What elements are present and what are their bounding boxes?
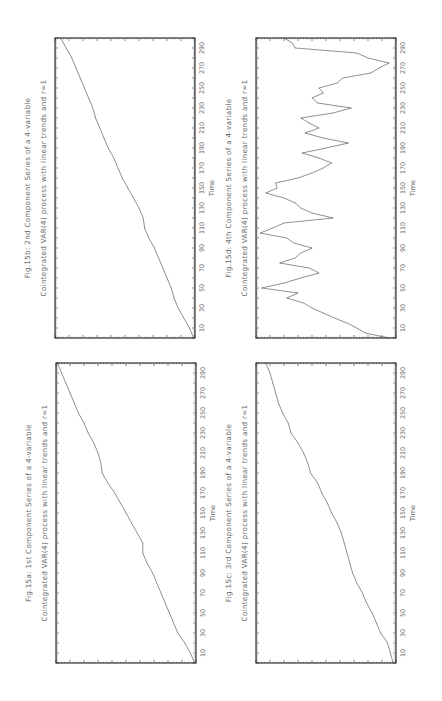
data-point xyxy=(302,153,303,154)
data-point xyxy=(161,593,162,594)
x-tick-label: 10 xyxy=(198,324,206,332)
x-tick-label: 270 xyxy=(399,387,407,399)
data-point xyxy=(80,78,81,79)
x-tick-label: 210 xyxy=(199,447,207,459)
data-point xyxy=(74,403,75,404)
data-point xyxy=(298,443,299,444)
data-point xyxy=(347,553,348,554)
x-tick-label: 290 xyxy=(199,367,207,379)
x-tick-label: 50 xyxy=(199,609,207,617)
x-tick-label: 30 xyxy=(198,304,206,312)
data-point xyxy=(270,373,271,374)
data-point xyxy=(139,208,140,209)
data-point xyxy=(327,503,328,504)
data-point xyxy=(194,663,195,664)
x-tick-label: 190 xyxy=(198,142,206,154)
data-point xyxy=(157,583,158,584)
data-point xyxy=(319,128,320,129)
data-point xyxy=(366,603,367,604)
data-point xyxy=(88,433,89,434)
data-point xyxy=(98,453,99,454)
x-tick-label: 230 xyxy=(399,102,407,114)
data-point xyxy=(102,473,103,474)
data-point xyxy=(348,143,349,144)
x-tick-label: 170 xyxy=(399,487,407,499)
data-point xyxy=(178,633,179,634)
data-point xyxy=(387,643,388,644)
data-point xyxy=(273,228,274,229)
data-point xyxy=(337,83,338,84)
data-point xyxy=(303,303,304,304)
x-tick-label: 90 xyxy=(399,244,407,252)
data-point xyxy=(298,178,299,179)
data-point xyxy=(94,443,95,444)
x-tick-label: 150 xyxy=(399,182,407,194)
data-point xyxy=(319,88,320,89)
x-tick-label: 130 xyxy=(198,202,206,214)
x-tick-label: 90 xyxy=(399,569,407,577)
data-point xyxy=(303,453,304,454)
data-point xyxy=(104,138,105,139)
data-point xyxy=(284,283,285,284)
data-point xyxy=(326,148,327,149)
data-point xyxy=(266,363,267,364)
x-tick-label: 190 xyxy=(399,467,407,479)
x-tick-label: 190 xyxy=(399,142,407,154)
data-point xyxy=(174,298,175,299)
data-point xyxy=(122,178,123,179)
chart-subtitle: Cointegrated VAR(4) process with linear … xyxy=(240,80,249,297)
data-point xyxy=(372,613,373,614)
data-point xyxy=(66,48,67,49)
data-point xyxy=(337,523,338,524)
data-point xyxy=(334,318,335,319)
x-tick-label: 230 xyxy=(199,427,207,439)
data-point xyxy=(266,193,267,194)
data-point xyxy=(292,43,293,44)
data-point xyxy=(323,93,324,94)
x-tick-label: 130 xyxy=(399,202,407,214)
data-point xyxy=(287,298,288,299)
data-point xyxy=(301,253,302,254)
data-point xyxy=(137,533,138,534)
panel-fig15d: Fig.15d: 4th Component Series of a 4-var… xyxy=(224,38,417,339)
data-point xyxy=(390,653,391,654)
x-tick-label: 130 xyxy=(199,527,207,539)
data-point xyxy=(193,338,194,339)
data-point xyxy=(72,58,73,59)
data-point xyxy=(108,148,109,149)
x-tick-label: 90 xyxy=(199,569,207,577)
data-point xyxy=(312,213,313,214)
x-tick-label: 90 xyxy=(198,244,206,252)
x-axis-label: Time xyxy=(409,505,417,523)
data-point xyxy=(323,138,324,139)
x-axis-label: Time xyxy=(208,180,216,198)
data-point xyxy=(95,118,96,119)
x-tick-label: 70 xyxy=(199,589,207,597)
x-tick-label: 150 xyxy=(198,182,206,194)
data-point xyxy=(393,663,394,664)
data-point xyxy=(288,423,289,424)
data-point xyxy=(317,483,318,484)
data-point xyxy=(379,68,380,69)
data-point xyxy=(309,268,310,269)
data-point xyxy=(357,53,358,54)
data-point xyxy=(331,513,332,514)
x-tick-label: 210 xyxy=(399,447,407,459)
x-tick-label: 70 xyxy=(399,264,407,272)
data-point xyxy=(309,123,310,124)
x-tick-label: 170 xyxy=(198,162,206,174)
data-point xyxy=(389,338,390,339)
data-point xyxy=(108,483,109,484)
data-point xyxy=(154,248,155,249)
x-tick-label: 150 xyxy=(199,507,207,519)
data-point xyxy=(66,383,67,384)
x-tick-label: 50 xyxy=(399,609,407,617)
data-point xyxy=(371,73,372,74)
data-point xyxy=(368,58,369,59)
data-point xyxy=(143,543,144,544)
data-point xyxy=(341,533,342,534)
data-point xyxy=(295,48,296,49)
data-point xyxy=(190,653,191,654)
x-tick-label: 170 xyxy=(199,487,207,499)
data-point xyxy=(295,258,296,259)
